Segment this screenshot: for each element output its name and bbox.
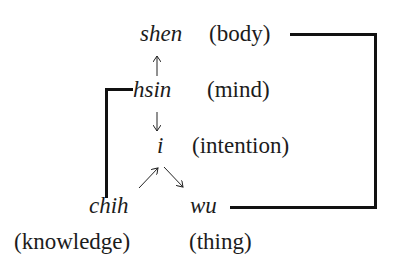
arrows-layer — [0, 0, 398, 272]
arrow-chih-to-i-icon — [139, 168, 158, 188]
arrow-i-to-wu-icon — [164, 167, 183, 187]
